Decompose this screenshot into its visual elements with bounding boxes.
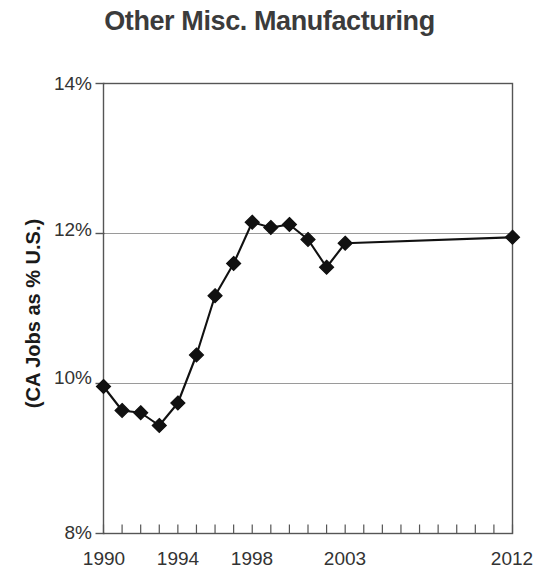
axis-frame bbox=[104, 84, 513, 534]
chart-figure: Other Misc. Manufacturing (CA Jobs as % … bbox=[0, 0, 539, 587]
data-markers bbox=[97, 215, 520, 432]
gridlines bbox=[104, 234, 513, 384]
x-axis-ticks bbox=[104, 525, 513, 534]
data-line bbox=[104, 222, 513, 425]
plot-area bbox=[0, 0, 539, 587]
